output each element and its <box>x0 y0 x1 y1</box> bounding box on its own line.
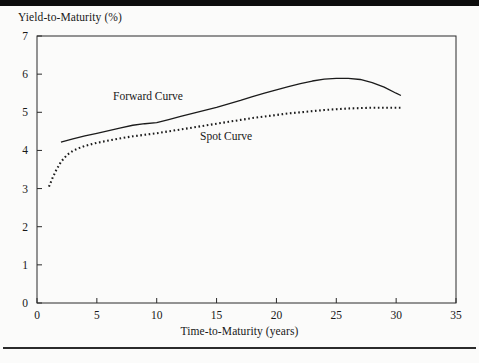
x-tick-label: 0 <box>34 309 40 321</box>
series-line-spot-curve <box>49 108 401 187</box>
x-axis-title: Time-to-Maturity (years) <box>0 325 479 337</box>
x-tick-label: 25 <box>331 309 343 321</box>
forward-curve-annotation: Forward Curve <box>113 90 183 102</box>
y-axis-ticks: 01234567 <box>22 30 42 309</box>
x-tick-label: 20 <box>271 309 283 321</box>
y-tick-label: 3 <box>22 183 28 195</box>
x-axis-ticks: 05101520253035 <box>34 298 462 321</box>
x-tick-label: 10 <box>151 309 163 321</box>
page-bottom-rule <box>3 347 476 349</box>
x-tick-label: 30 <box>390 309 402 321</box>
x-tick-label: 15 <box>211 309 223 321</box>
x-tick-label: 35 <box>450 309 462 321</box>
chart-plot-area: 01234567 05101520253035 Forward Curve Sp… <box>0 0 479 363</box>
chart-svg: 01234567 05101520253035 Forward Curve Sp… <box>0 0 479 363</box>
x-tick-label: 5 <box>94 309 100 321</box>
spot-curve-annotation: Spot Curve <box>200 130 252 143</box>
y-tick-label: 5 <box>22 106 28 118</box>
y-tick-label: 0 <box>22 297 28 309</box>
y-tick-label: 4 <box>22 144 28 156</box>
y-tick-label: 7 <box>22 30 28 42</box>
y-tick-label: 1 <box>22 259 28 271</box>
axis-frame <box>37 36 456 303</box>
y-tick-label: 6 <box>22 68 28 80</box>
y-tick-label: 2 <box>22 221 28 233</box>
